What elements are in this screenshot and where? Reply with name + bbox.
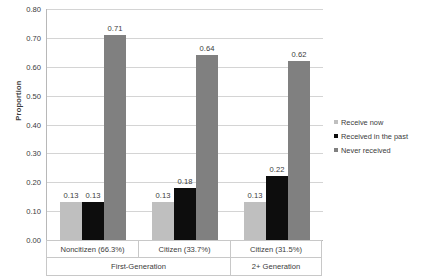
y-tick-label: 0.50 (26, 91, 41, 100)
bar-slot: 0.22 (266, 9, 288, 240)
y-tick-label: 0.10 (26, 207, 41, 216)
bar-slot: 0.62 (288, 9, 310, 240)
bar-value-label: 0.22 (270, 165, 285, 174)
bar[interactable]: 0.22 (266, 176, 288, 240)
bar[interactable]: 0.18 (174, 188, 196, 240)
bar-value-label: 0.13 (86, 191, 101, 200)
bar-slot: 0.13 (152, 9, 174, 240)
x-axis-category-label: Noncitizen (66.3%) (46, 240, 138, 258)
bar[interactable]: 0.71 (104, 35, 126, 240)
bar-slot: 0.13 (60, 9, 82, 240)
bar-chart: Proportion 0.000.100.200.300.400.500.600… (0, 0, 426, 277)
y-axis-tick-labels: 0.000.100.200.300.400.500.600.700.80 (0, 0, 44, 250)
bar-value-label: 0.71 (108, 24, 123, 33)
legend-label: Never received (341, 146, 391, 155)
bar[interactable]: 0.13 (82, 202, 104, 240)
bar-slot: 0.18 (174, 9, 196, 240)
y-tick-label: 0.20 (26, 178, 41, 187)
x-axis-row-groups: First-Generation2+ Generation (46, 258, 322, 276)
y-tick-label: 0.30 (26, 149, 41, 158)
y-tick-label: 0.70 (26, 33, 41, 42)
bar-value-label: 0.13 (156, 191, 171, 200)
bar-slot: 0.13 (244, 9, 266, 240)
bar[interactable]: 0.62 (288, 61, 310, 240)
bar-value-label: 0.13 (64, 191, 79, 200)
plot-area: 0.130.130.710.130.180.640.130.220.62 (46, 9, 323, 240)
legend-item[interactable]: Received in the past (334, 130, 426, 142)
bar-slot: 0.64 (196, 9, 218, 240)
bar-slot: 0.71 (104, 9, 126, 240)
bar-slot: 0.13 (82, 9, 104, 240)
bar-value-label: 0.64 (200, 44, 215, 53)
bar[interactable]: 0.13 (60, 202, 82, 240)
y-tick-label: 0.40 (26, 120, 41, 129)
chart-legend: Receive nowReceived in the pastNever rec… (334, 116, 426, 158)
x-axis-group-label: 2+ Generation (230, 258, 322, 276)
y-tick-label: 0.00 (26, 236, 41, 245)
legend-swatch-icon (334, 134, 338, 138)
x-axis-category-table: Noncitizen (66.3%)Citizen (33.7%)Citizen… (46, 240, 322, 277)
bar[interactable]: 0.13 (152, 202, 174, 240)
bar-value-label: 0.13 (248, 191, 263, 200)
legend-swatch-icon (334, 120, 338, 124)
legend-label: Received in the past (341, 132, 408, 141)
bar-group: 0.130.220.62 (231, 9, 323, 240)
x-axis-group-label: First-Generation (46, 258, 230, 276)
x-axis-category-label: Citizen (33.7%) (138, 240, 230, 258)
legend-item[interactable]: Receive now (334, 116, 426, 128)
legend-swatch-icon (334, 148, 338, 152)
bar-group: 0.130.130.71 (47, 9, 139, 240)
y-tick-label: 0.60 (26, 62, 41, 71)
y-tick-label: 0.80 (26, 5, 41, 14)
legend-item[interactable]: Never received (334, 144, 426, 156)
x-axis-row-categories: Noncitizen (66.3%)Citizen (33.7%)Citizen… (46, 240, 322, 258)
bar[interactable]: 0.13 (244, 202, 266, 240)
bar-value-label: 0.18 (178, 177, 193, 186)
bar-group: 0.130.180.64 (139, 9, 231, 240)
bar[interactable]: 0.64 (196, 55, 218, 240)
x-axis-category-label: Citizen (31.5%) (230, 240, 322, 258)
bar-value-label: 0.62 (292, 50, 307, 59)
legend-label: Receive now (341, 118, 383, 127)
